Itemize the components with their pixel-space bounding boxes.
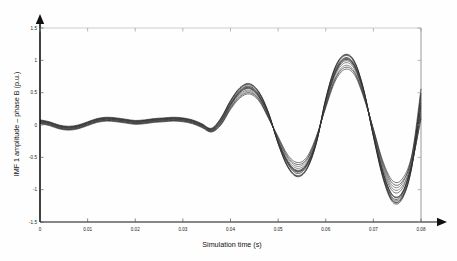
x-tick-label: 0	[39, 227, 42, 232]
series-line	[40, 59, 421, 197]
series-line	[40, 69, 421, 183]
series-line	[40, 56, 421, 203]
x-tick-label: 0.08	[417, 227, 426, 232]
x-tick-label: 0.07	[369, 227, 378, 232]
series-line	[40, 58, 421, 201]
series-line	[40, 61, 421, 193]
chart-svg: 00.010.020.030.040.050.060.070.08-1.5-1-…	[0, 0, 457, 261]
y-axis-title: IMF 1 amplitude – phase B (p.u.)	[12, 72, 21, 177]
y-tick-label: 1	[34, 58, 37, 63]
x-tick-label: 0.04	[226, 227, 235, 232]
x-tick-label: 0.03	[178, 227, 187, 232]
series-line	[40, 65, 421, 188]
x-tick-label: 0.02	[131, 227, 140, 232]
y-tick-label: 0	[34, 123, 37, 128]
x-tick-label: 0.05	[274, 227, 283, 232]
x-tick-label: 0.06	[321, 227, 330, 232]
y-tick-label: 0.5	[31, 90, 38, 95]
y-tick-label: 1.5	[31, 26, 38, 31]
tick-labels-layer: 00.010.020.030.040.050.060.070.08-1.5-1-…	[29, 26, 426, 232]
series-line	[40, 57, 421, 199]
grid-layer	[40, 28, 421, 222]
y-tick-label: -0.5	[29, 155, 37, 160]
series-line	[40, 55, 421, 203]
series-line	[40, 63, 421, 191]
y-tick-label: -1.5	[29, 220, 37, 225]
x-axis-arrowhead	[437, 218, 447, 226]
series-line	[40, 67, 421, 185]
series-line	[40, 54, 421, 204]
series-layer	[40, 54, 421, 204]
series-line	[40, 59, 421, 197]
x-tick-label: 0.01	[83, 227, 92, 232]
y-axis-arrowhead	[36, 14, 44, 24]
y-tick-label: -1	[33, 187, 38, 192]
x-axis-title: Simulation time (s)	[202, 240, 262, 249]
chart-figure: 00.010.020.030.040.050.060.070.08-1.5-1-…	[0, 0, 457, 261]
